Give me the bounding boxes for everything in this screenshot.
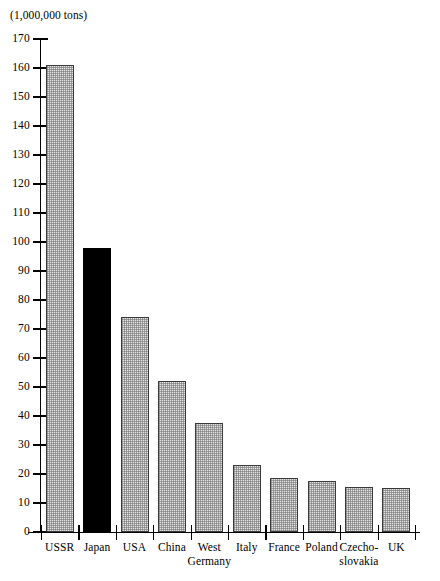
bar <box>270 478 298 532</box>
x-axis-tick <box>378 525 379 540</box>
y-axis-tick-label: 30 <box>0 439 30 451</box>
y-axis-tick-label: 10 <box>0 497 30 509</box>
y-axis-tick-label: 170 <box>0 33 30 45</box>
y-axis-tick-label: 80 <box>0 294 30 306</box>
x-axis-tick <box>228 525 229 540</box>
x-axis-tick <box>340 525 341 540</box>
y-axis-tick-label: 150 <box>0 91 30 103</box>
x-axis-category-label: UK <box>372 541 421 555</box>
bar <box>158 381 186 532</box>
bar <box>308 481 336 532</box>
x-axis-tick <box>78 525 79 540</box>
bar <box>121 317 149 532</box>
y-axis-tick-label: 60 <box>0 352 30 364</box>
bar <box>345 487 373 532</box>
y-axis-tick-label: 90 <box>0 265 30 277</box>
y-axis-tick-label: 70 <box>0 323 30 335</box>
bar <box>83 248 111 532</box>
y-axis-tick-label: 160 <box>0 62 30 74</box>
bar-chart: (1,000,000 tons) 01020304050607080901001… <box>0 0 440 581</box>
x-axis-tick <box>415 525 416 540</box>
bar <box>233 465 261 532</box>
bar <box>195 423 223 532</box>
x-axis-tick <box>303 525 304 540</box>
x-axis-line <box>28 532 420 533</box>
y-axis-tick-label: 50 <box>0 381 30 393</box>
x-axis-tick <box>265 525 266 540</box>
x-axis-tick <box>116 525 117 540</box>
y-axis-tick-label: 120 <box>0 178 30 190</box>
x-axis-tick <box>191 525 192 540</box>
y-axis-tick-label: 40 <box>0 410 30 422</box>
x-axis-tick <box>41 525 42 540</box>
y-axis-tick-label: 130 <box>0 149 30 161</box>
bar <box>382 488 410 532</box>
x-axis-tick <box>153 525 154 540</box>
y-axis-tick <box>33 38 48 39</box>
bar <box>46 65 74 532</box>
y-axis-tick-label: 20 <box>0 468 30 480</box>
y-axis-tick-label: 140 <box>0 120 30 132</box>
y-axis-tick-label: 110 <box>0 207 30 219</box>
y-axis-tick-label: 100 <box>0 236 30 248</box>
y-axis-line <box>40 39 41 533</box>
y-axis-tick-label: 0 <box>0 526 30 538</box>
plot-area: 0102030405060708090100110120130140150160… <box>0 0 440 581</box>
